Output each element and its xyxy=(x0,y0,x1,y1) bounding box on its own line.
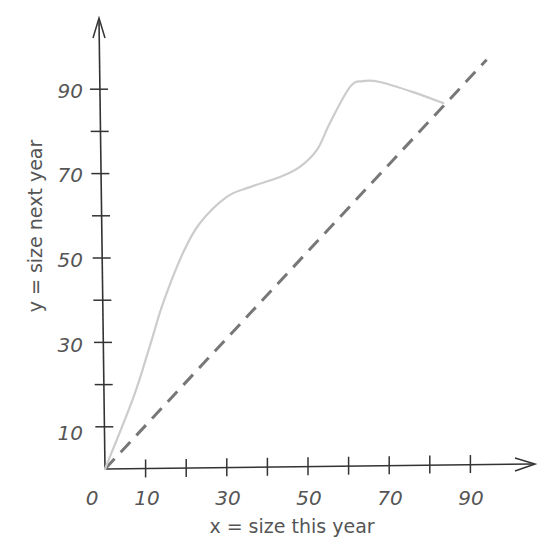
x-axis-line xyxy=(105,464,533,469)
y-tick-label-50: 50 xyxy=(58,248,83,272)
y-axis xyxy=(90,18,113,469)
x-tick-label-70: 70 xyxy=(377,486,402,510)
y-tick-label-90: 90 xyxy=(58,79,83,103)
origin-label: 0 xyxy=(86,486,99,510)
y-ticks xyxy=(90,89,113,427)
y-tick-label-30: 30 xyxy=(58,333,83,357)
y-tick-label-70: 70 xyxy=(58,163,83,187)
x-axis xyxy=(105,455,535,477)
y-axis-line xyxy=(99,20,105,469)
x-ticks xyxy=(146,455,471,477)
growth-curve xyxy=(105,81,443,469)
y-tick-label-10: 10 xyxy=(58,421,83,445)
y-axis-title: y = size next year xyxy=(24,139,46,312)
diagonal-dashed-line xyxy=(105,60,487,469)
x-tick-label-50: 50 xyxy=(296,486,321,510)
x-tick-label-90: 90 xyxy=(458,486,483,510)
x-axis-title: x = size this year xyxy=(209,515,374,537)
chart: 0 10 30 50 70 90 10 30 50 70 90 x = size… xyxy=(0,0,546,552)
x-tick-label-10: 10 xyxy=(134,486,159,510)
x-tick-label-30: 30 xyxy=(215,486,240,510)
